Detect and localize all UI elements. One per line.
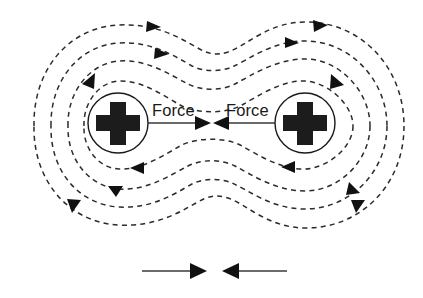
legend-arrowhead-right <box>190 263 207 279</box>
field-diagram-root: Force Force <box>0 0 423 298</box>
field-arrow-icon-inner-lower-left <box>130 162 144 174</box>
legend-arrowhead-left <box>222 263 239 279</box>
field-arrow-icon-inner-lower-right <box>281 161 295 173</box>
field-arrow-icon-third-lower-left <box>108 186 123 197</box>
legend-arrows-group <box>142 263 287 279</box>
force-arrowhead-left <box>195 116 211 130</box>
right-charge-group[interactable] <box>275 93 335 153</box>
field-arrow-icon-third-right <box>330 74 344 89</box>
left-charge-group[interactable] <box>88 93 148 153</box>
field-arrow-icon-top-outer-right <box>313 20 328 32</box>
field-arrow-icon-third-lower-right <box>346 182 360 195</box>
field-line-outer-bottom <box>34 126 404 228</box>
force-label-right: Force <box>226 101 269 119</box>
field-diagram-svg: Force Force <box>0 0 423 298</box>
field-arrow-icon-top-second-left <box>154 48 169 59</box>
field-arrow-icon-outer-lower-right <box>351 200 365 213</box>
field-arrow-icon-top-second-right <box>285 37 299 48</box>
force-label-left: Force <box>152 101 195 119</box>
